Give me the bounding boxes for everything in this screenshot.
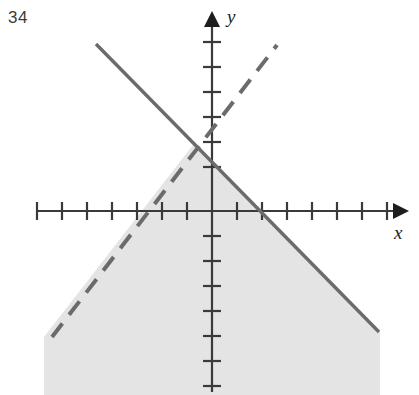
- x-axis-label: x: [394, 222, 402, 244]
- inequality-graph: [0, 0, 419, 395]
- x-axis-arrowhead-icon: [393, 203, 409, 219]
- problem-number: 34: [8, 8, 28, 28]
- y-axis-arrowhead-icon: [204, 11, 220, 27]
- y-axis-label: y: [227, 6, 235, 28]
